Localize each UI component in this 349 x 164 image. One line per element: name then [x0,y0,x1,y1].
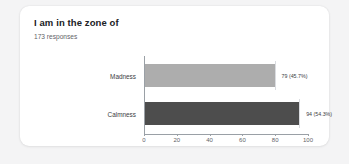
bar-value-madness: 79 (45.7%) [282,73,308,79]
page-background: I am in the zone of 173 responses Madnes… [0,0,349,164]
tick-mark [308,134,309,136]
bar-chart-plot: Madness 79 (45.7%) Calmness 94 (54.3%) 0… [20,52,329,142]
tick-label: 80 [272,137,279,143]
category-label-madness: Madness [110,72,136,79]
tick-label: 20 [173,137,180,143]
x-axis-ticks: 020406080100 [144,134,308,148]
tick-label: 40 [206,137,213,143]
tick-label: 0 [142,137,145,143]
tick-mark [275,134,276,136]
tick-mark [177,134,178,136]
tick-mark [144,134,145,136]
tick-mark [242,134,243,136]
tick-label: 100 [303,137,313,143]
bar-end-tick [299,99,300,128]
bar-end-tick [275,61,276,90]
category-label-calmness: Calmness [108,110,136,117]
chart-card: I am in the zone of 173 responses Madnes… [20,6,329,146]
response-count: 173 responses [34,32,304,42]
bar-calmness[interactable]: 94 (54.3%) [145,102,299,125]
bar-value-calmness: 94 (54.3%) [306,111,332,117]
tick-mark [210,134,211,136]
chart-title: I am in the zone of [34,17,304,29]
bar-madness[interactable]: 79 (45.7%) [145,64,275,87]
tick-label: 60 [239,137,246,143]
card-header: I am in the zone of 173 responses [34,17,304,42]
